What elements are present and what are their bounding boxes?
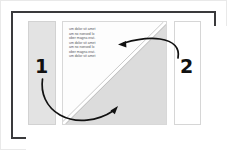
lorem-text-block: um dolor sit amet am no nonsed lo ober m… [69,27,119,59]
center-panel: um dolor sit amet am no nonsed lo ober m… [62,21,167,125]
callout-number-2: 2 [180,57,193,76]
callout-number-1: 1 [35,57,48,76]
figure-canvas: um dolor sit amet am no nonsed lo ober m… [0,0,227,150]
text-line: um dolor sit amet [69,54,119,59]
